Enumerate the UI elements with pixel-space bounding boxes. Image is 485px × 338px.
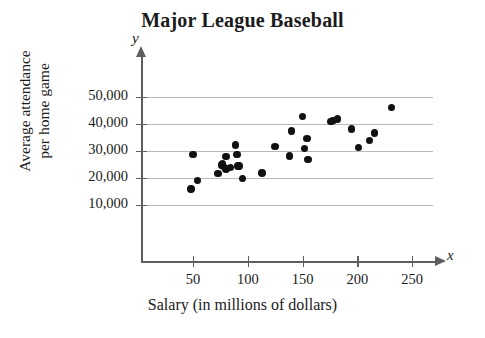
data-point bbox=[388, 104, 395, 111]
data-point bbox=[303, 135, 310, 142]
data-point bbox=[189, 151, 196, 158]
x-axis-tick bbox=[412, 256, 413, 267]
x-axis-tick-label: 200 bbox=[335, 271, 379, 288]
data-point bbox=[239, 175, 246, 182]
gridline-y bbox=[141, 178, 433, 179]
x-axis-tick bbox=[248, 256, 249, 267]
y-axis-tick-label: 30,000 bbox=[58, 141, 128, 158]
y-axis-title: Average attendance per home game bbox=[15, 11, 53, 211]
gridline-y bbox=[141, 97, 433, 98]
y-axis-tick bbox=[136, 124, 147, 125]
y-axis-title-line-1: Average attendance bbox=[15, 11, 34, 211]
x-axis-tick-label: 250 bbox=[390, 271, 434, 288]
gridline-y bbox=[141, 205, 433, 206]
data-point bbox=[286, 152, 293, 159]
y-axis-tick bbox=[136, 178, 147, 179]
x-axis-tick-label: 50 bbox=[171, 271, 215, 288]
data-point bbox=[366, 137, 373, 144]
x-axis-tick-label: 100 bbox=[226, 271, 270, 288]
y-axis-title-line-2: per home game bbox=[34, 11, 53, 211]
data-point bbox=[334, 115, 341, 122]
data-point bbox=[271, 143, 278, 150]
data-point bbox=[258, 169, 265, 176]
data-point bbox=[299, 113, 306, 120]
data-point bbox=[355, 144, 362, 151]
data-point bbox=[288, 127, 295, 134]
y-axis-tick-label: 40,000 bbox=[58, 114, 128, 131]
data-point bbox=[233, 151, 240, 158]
x-axis-tick bbox=[303, 256, 304, 267]
data-point bbox=[304, 156, 311, 163]
x-axis-arrowhead-icon bbox=[435, 256, 446, 266]
y-axis-variable-label: y bbox=[132, 30, 139, 47]
y-axis-tick-label: 20,000 bbox=[58, 168, 128, 185]
x-axis-variable-label: x bbox=[447, 247, 454, 264]
plot-area bbox=[141, 50, 433, 262]
scatter-plot-figure: Major League Baseball y x 10,00020,00030… bbox=[0, 0, 485, 338]
data-point bbox=[371, 129, 378, 136]
data-point bbox=[222, 153, 229, 160]
data-point bbox=[194, 177, 201, 184]
data-point bbox=[187, 185, 194, 192]
y-axis-tick bbox=[136, 205, 147, 206]
data-point bbox=[348, 125, 355, 132]
data-point bbox=[235, 162, 242, 169]
y-axis-tick-label: 10,000 bbox=[58, 195, 128, 212]
y-axis-tick bbox=[136, 151, 147, 152]
data-point bbox=[227, 164, 234, 171]
x-axis-tick bbox=[357, 256, 358, 267]
x-axis-tick-label: 150 bbox=[281, 271, 325, 288]
x-axis-title: Salary (in millions of dollars) bbox=[0, 296, 485, 314]
y-axis-tick-label: 50,000 bbox=[58, 87, 128, 104]
chart-title: Major League Baseball bbox=[0, 9, 485, 32]
y-axis-tick bbox=[136, 97, 147, 98]
data-point bbox=[232, 141, 239, 148]
data-point bbox=[214, 170, 221, 177]
x-axis-tick bbox=[193, 256, 194, 267]
gridline-y bbox=[141, 124, 433, 125]
